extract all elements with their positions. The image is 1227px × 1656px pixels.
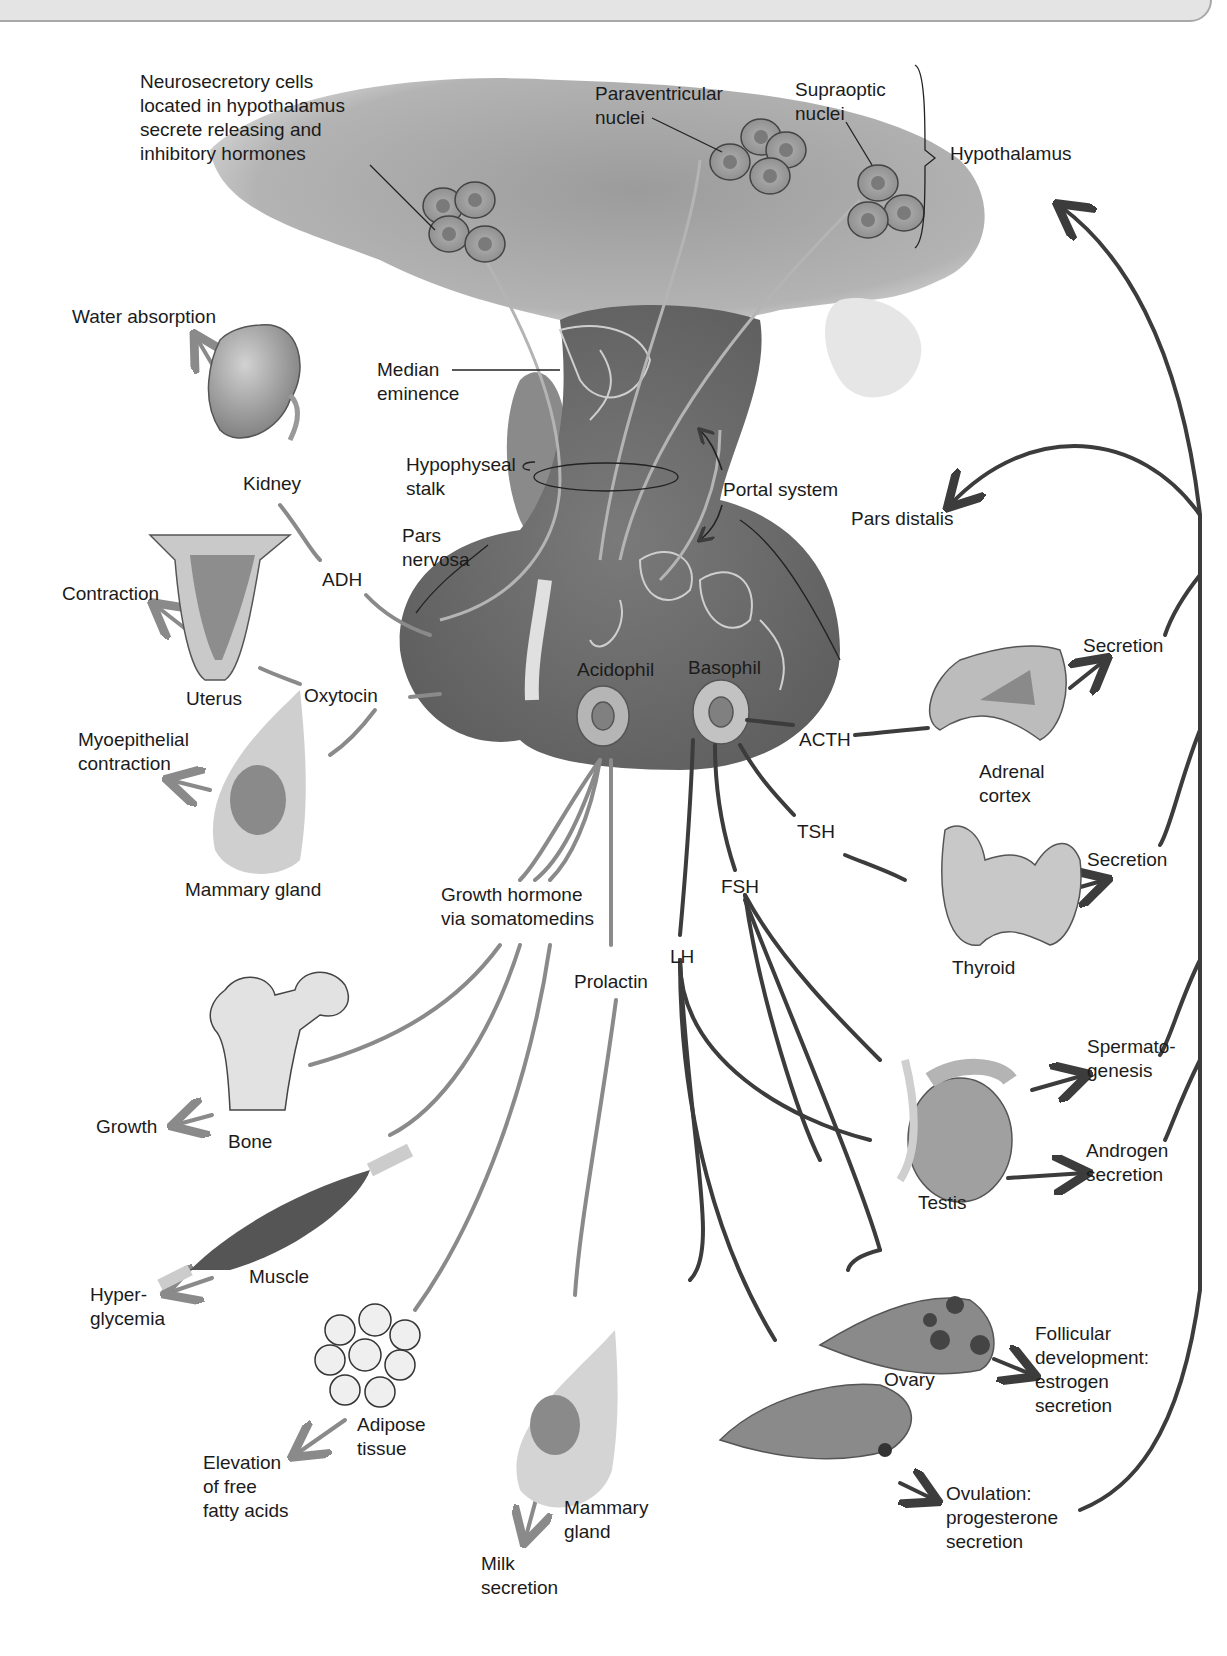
label-contraction: Contraction <box>62 582 159 606</box>
label-supraoptic-nuclei: Supraoptic nuclei <box>795 78 886 126</box>
label-tsh: TSH <box>797 820 835 844</box>
label-ovulation: Ovulation: progesterone secretion <box>946 1482 1058 1554</box>
label-fatty-acids: Elevation of free fatty acids <box>203 1451 289 1523</box>
label-milk-secretion: Milk secretion <box>481 1552 558 1600</box>
label-mammary-gland-bottom: Mammary gland <box>564 1496 648 1544</box>
label-thyroid-secretion: Secretion <box>1087 848 1167 872</box>
label-adh: ADH <box>322 568 362 592</box>
kidney-illustration <box>208 325 300 440</box>
label-growth: Growth <box>96 1115 157 1139</box>
label-paraventricular-nuclei: Paraventricular nuclei <box>595 82 723 130</box>
label-basophil: Basophil <box>688 656 761 680</box>
label-pars-nervosa: Pars nervosa <box>402 524 470 572</box>
label-muscle: Muscle <box>249 1265 309 1289</box>
label-median-eminence: Median eminence <box>377 358 459 406</box>
uterus-illustration <box>150 535 290 680</box>
label-prolactin: Prolactin <box>574 970 648 994</box>
label-hypophyseal-stalk: Hypophyseal stalk <box>406 453 516 501</box>
label-hyperglycemia: Hyper- glycemia <box>90 1283 165 1331</box>
label-thyroid: Thyroid <box>952 956 1015 980</box>
label-ovary: Ovary <box>884 1368 935 1392</box>
bone-illustration <box>210 972 348 1110</box>
label-portal-system: Portal system <box>723 478 838 502</box>
label-hypothalamus: Hypothalamus <box>950 142 1071 166</box>
label-myoepithelial-contraction: Myoepithelial contraction <box>78 728 189 776</box>
label-adipose-tissue: Adipose tissue <box>357 1413 426 1461</box>
testis-illustration <box>900 1060 1012 1202</box>
label-growth-hormone: Growth hormone via somatomedins <box>441 883 594 931</box>
label-acth: ACTH <box>799 728 851 752</box>
label-androgen-secretion: Androgen secretion <box>1086 1139 1168 1187</box>
mammary-gland-left-illustration <box>213 690 306 874</box>
label-pars-distalis: Pars distalis <box>851 507 953 531</box>
label-lh: LH <box>670 945 694 969</box>
adipose-illustration <box>315 1304 420 1407</box>
label-oxytocin: Oxytocin <box>304 684 378 708</box>
label-testis: Testis <box>918 1191 967 1215</box>
label-water-absorption: Water absorption <box>72 305 216 329</box>
label-fsh: FSH <box>721 875 759 899</box>
label-uterus: Uterus <box>186 687 242 711</box>
thyroid-illustration <box>942 826 1081 945</box>
label-adrenal-cortex: Adrenal cortex <box>979 760 1045 808</box>
label-spermatogenesis: Spermato- genesis <box>1087 1035 1176 1083</box>
label-bone: Bone <box>228 1130 272 1154</box>
label-adrenal-secretion: Secretion <box>1083 634 1163 658</box>
ovary-illustration <box>720 1296 994 1459</box>
label-acidophil: Acidophil <box>577 658 654 682</box>
label-follicular-development: Follicular development: estrogen secreti… <box>1035 1322 1149 1418</box>
label-neurosecretory-cells: Neurosecretory cells located in hypothal… <box>140 70 345 166</box>
mammary-gland-bottom-illustration <box>516 1330 617 1507</box>
adrenal-illustration <box>930 646 1066 740</box>
label-mammary-gland-left: Mammary gland <box>185 878 321 902</box>
label-kidney: Kidney <box>243 472 301 496</box>
